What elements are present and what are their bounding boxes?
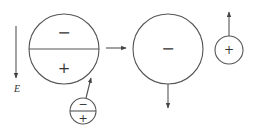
small-dipole-bottom-sign: + <box>78 112 87 125</box>
big-dipole-bottom-sign: + <box>58 59 71 77</box>
field-label: E <box>13 83 20 94</box>
negative-sphere-sign: − <box>161 39 174 58</box>
small-dipole-top-sign: − <box>78 98 87 111</box>
big-dipole-top-sign: − <box>57 23 70 42</box>
positive-sphere-sign: + <box>224 43 234 57</box>
dipole-separation-diagram: E − + − + − + <box>0 0 257 134</box>
collision-arrow <box>86 78 91 98</box>
